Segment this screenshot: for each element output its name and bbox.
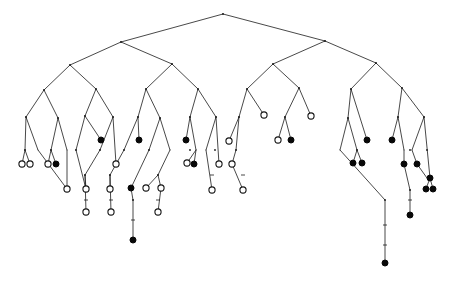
internal-node xyxy=(84,115,86,117)
internal-node xyxy=(222,13,224,15)
leaf-node-filled xyxy=(350,160,356,166)
internal-node xyxy=(95,88,97,90)
internal-node xyxy=(112,116,114,118)
leaf-node-open xyxy=(107,186,113,192)
internal-node xyxy=(272,63,274,65)
internal-node xyxy=(43,89,45,91)
internal-node xyxy=(84,174,86,176)
leaf-node-open xyxy=(143,185,149,191)
leaf-node-open xyxy=(45,161,51,167)
leaf-node-open xyxy=(226,138,232,144)
leaf-node-open xyxy=(108,209,114,215)
leaf-node-filled xyxy=(414,161,420,167)
internal-node xyxy=(426,149,428,151)
phylogenetic-tree-figure xyxy=(0,0,449,284)
internal-node xyxy=(25,116,27,118)
internal-node xyxy=(69,64,71,66)
leaf-node-filled xyxy=(128,185,134,191)
leaf-node-open xyxy=(83,209,89,215)
internal-node xyxy=(324,40,326,42)
internal-node xyxy=(148,149,150,151)
internal-node xyxy=(171,63,173,65)
internal-node xyxy=(159,117,161,119)
internal-node xyxy=(401,87,403,89)
internal-node xyxy=(423,116,425,118)
leaf-node-open xyxy=(308,113,314,119)
leaf-node-filled xyxy=(364,137,370,143)
internal-node xyxy=(238,116,240,118)
internal-node xyxy=(189,149,191,151)
internal-node xyxy=(75,149,77,151)
internal-node xyxy=(24,149,26,151)
leaf-node-filled xyxy=(407,212,413,218)
leaf-node-open xyxy=(184,160,190,166)
internal-node xyxy=(397,116,399,118)
leaf-node-filled xyxy=(130,237,136,243)
leaf-node-filled xyxy=(427,175,433,181)
internal-node xyxy=(214,149,216,151)
leaf-node-open xyxy=(261,112,267,118)
internal-node xyxy=(109,174,111,176)
leaf-node-open xyxy=(209,187,215,193)
leaf-node-filled xyxy=(183,137,189,143)
leaf-node-open xyxy=(216,161,222,167)
leaf-node-open xyxy=(19,161,25,167)
leaf-node-open xyxy=(229,161,235,167)
leaf-node-filled xyxy=(136,137,142,143)
leaf-node-filled xyxy=(53,161,59,167)
internal-node xyxy=(409,189,411,191)
leaf-node-filled xyxy=(288,137,294,143)
internal-node xyxy=(132,199,134,201)
leaf-node-filled xyxy=(359,160,365,166)
leaf-node-filled xyxy=(430,186,436,192)
internal-node xyxy=(375,62,377,64)
tree-canvas xyxy=(0,0,449,284)
figure-background xyxy=(0,0,449,284)
internal-node xyxy=(215,116,217,118)
leaf-node-open xyxy=(158,185,164,191)
internal-node xyxy=(246,88,248,90)
leaf-node-filled xyxy=(191,161,197,167)
internal-node xyxy=(384,199,386,201)
internal-node xyxy=(50,149,52,151)
leaf-node-open xyxy=(275,137,281,143)
internal-node xyxy=(197,88,199,90)
internal-node xyxy=(189,116,191,118)
internal-node xyxy=(157,174,159,176)
leaf-node-open xyxy=(83,186,89,192)
leaf-node-filled xyxy=(401,161,407,167)
leaf-node-filled xyxy=(382,260,388,266)
internal-node xyxy=(137,116,139,118)
internal-node xyxy=(99,149,101,151)
leaf-node-filled xyxy=(389,137,395,143)
internal-node xyxy=(347,117,349,119)
internal-node xyxy=(409,149,411,151)
internal-node xyxy=(145,88,147,90)
internal-node xyxy=(120,41,122,43)
leaf-node-filled xyxy=(98,137,104,143)
leaf-node-open xyxy=(155,209,161,215)
leaf-node-open xyxy=(64,186,70,192)
leaf-node-open xyxy=(27,161,33,167)
internal-node xyxy=(57,117,59,119)
internal-node xyxy=(123,149,125,151)
leaf-node-open xyxy=(240,187,246,193)
internal-node xyxy=(235,149,237,151)
leaf-node-filled xyxy=(423,186,429,192)
internal-node xyxy=(356,149,358,151)
internal-node xyxy=(350,88,352,90)
leaf-node-open xyxy=(113,161,119,167)
internal-node xyxy=(298,87,300,89)
internal-node xyxy=(284,116,286,118)
